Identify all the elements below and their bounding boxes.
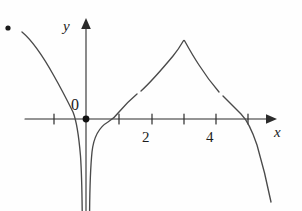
curve-right-branch-descend	[184, 41, 219, 93]
x-axis-label: x	[274, 125, 281, 140]
math-graph-figure: y x 0 2 4	[0, 0, 302, 211]
graph-canvas	[0, 0, 302, 211]
y-axis-arrow-icon	[81, 18, 91, 29]
x-axis-arrow-icon	[266, 114, 277, 124]
origin-label: 0	[71, 97, 79, 113]
y-axis-label: y	[63, 19, 70, 34]
curve-right-branch-fall	[223, 96, 271, 202]
curve-right-branch-rise	[90, 94, 137, 211]
x-tick-label-2: 2	[142, 130, 150, 145]
corner-bullet-mark	[5, 25, 10, 30]
curve-right-branch-to-cusp	[141, 41, 184, 92]
x-tick-label-4: 4	[206, 130, 214, 145]
curve-left-branch	[22, 32, 82, 211]
origin-point-marker	[83, 116, 90, 123]
